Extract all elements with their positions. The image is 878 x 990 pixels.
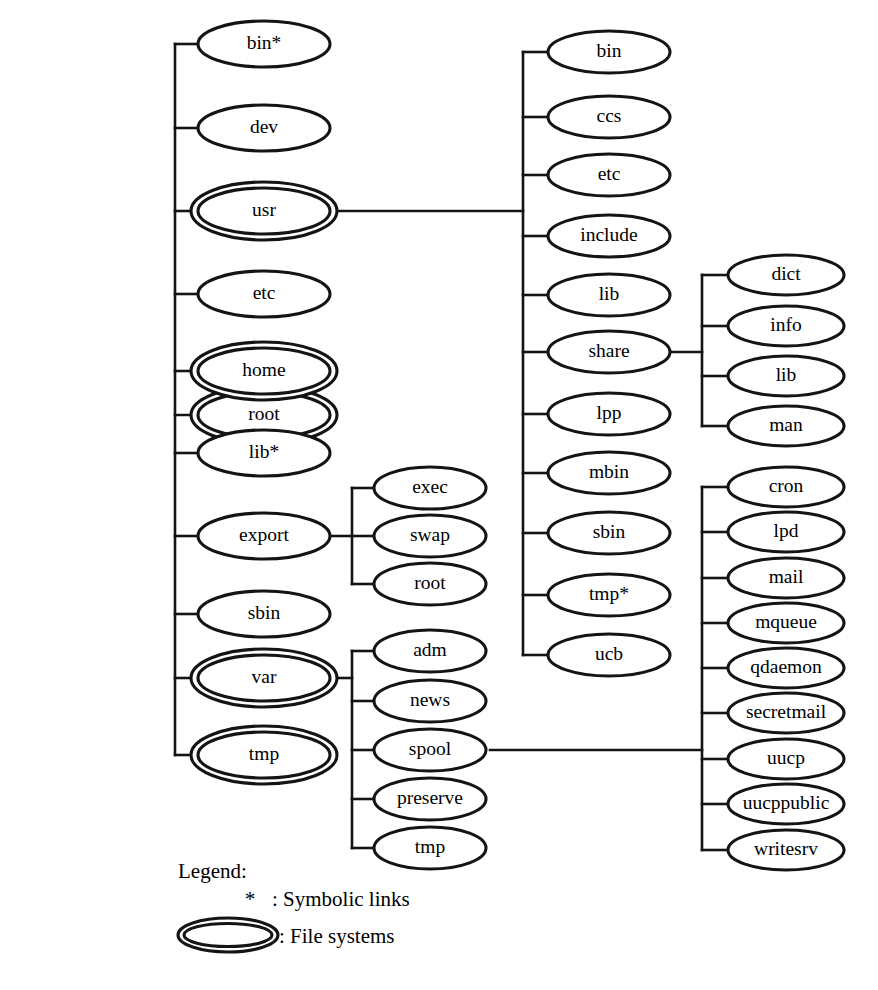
- node-usr[interactable]: usr: [191, 182, 337, 240]
- node-label-dev: dev: [250, 116, 278, 137]
- tree-canvas: rootbin*devusretchomelib*exportsbinvartm…: [0, 0, 878, 990]
- node-secretmail[interactable]: secretmail: [728, 693, 844, 733]
- node-usr-lib[interactable]: lib: [548, 274, 670, 316]
- node-swap[interactable]: swap: [374, 515, 486, 557]
- node-label-exec: exec: [412, 476, 448, 497]
- node-label-lpd: lpd: [774, 520, 799, 541]
- node-label-usr-lpp: lpp: [597, 402, 622, 423]
- node-label-etc: etc: [253, 282, 276, 303]
- node-mqueue[interactable]: mqueue: [728, 603, 844, 643]
- node-usr-ccs[interactable]: ccs: [548, 96, 670, 138]
- node-label-man: man: [769, 414, 803, 435]
- node-usr-share[interactable]: share: [548, 331, 670, 373]
- node-label-usr-sbin: sbin: [593, 521, 626, 542]
- node-mail[interactable]: mail: [728, 558, 844, 598]
- node-dev[interactable]: dev: [198, 105, 330, 151]
- node-label-export: export: [239, 524, 289, 545]
- node-label-spool: spool: [409, 738, 452, 759]
- node-usr-mbin[interactable]: mbin: [548, 452, 670, 494]
- node-share-lib[interactable]: lib: [728, 356, 844, 396]
- node-label-share-lib: lib: [776, 364, 797, 385]
- node-spool[interactable]: spool: [374, 729, 486, 771]
- node-label-mqueue: mqueue: [755, 611, 817, 632]
- node-label-usr: usr: [252, 199, 276, 220]
- node-usr-ucb[interactable]: ucb: [548, 634, 670, 676]
- node-label-usr-lib: lib: [599, 283, 620, 304]
- node-label-uucppublic: uucppublic: [743, 792, 830, 813]
- node-usr-bin[interactable]: bin: [548, 31, 670, 73]
- node-qdaemon[interactable]: qdaemon: [728, 648, 844, 688]
- node-usr-include[interactable]: include: [548, 215, 670, 257]
- node-lib[interactable]: lib*: [198, 430, 330, 476]
- node-usr-lpp[interactable]: lpp: [548, 393, 670, 435]
- node-var-tmp[interactable]: tmp: [374, 827, 486, 869]
- node-label-qdaemon: qdaemon: [750, 656, 822, 677]
- node-label-usr-include: include: [580, 224, 637, 245]
- node-label-usr-share: share: [588, 340, 629, 361]
- node-cron[interactable]: cron: [728, 467, 844, 507]
- node-tmp[interactable]: tmp: [191, 726, 337, 784]
- node-preserve[interactable]: preserve: [374, 778, 486, 820]
- node-label-adm: adm: [413, 639, 447, 660]
- node-lpd[interactable]: lpd: [728, 512, 844, 552]
- node-label-tmp: tmp: [249, 743, 279, 764]
- node-label-news: news: [410, 689, 450, 710]
- node-label-usr-etc: etc: [598, 163, 621, 184]
- node-uucppublic[interactable]: uucppublic: [728, 784, 844, 824]
- node-label-info: info: [770, 314, 801, 335]
- node-label-uucp: uucp: [767, 747, 805, 768]
- node-sbin[interactable]: sbin: [198, 591, 330, 637]
- node-label-usr-ucb: ucb: [595, 643, 623, 664]
- node-bin[interactable]: bin*: [198, 21, 330, 67]
- node-man[interactable]: man: [728, 406, 844, 446]
- node-export[interactable]: export: [198, 513, 330, 559]
- node-label-writesrv: writesrv: [754, 838, 818, 859]
- node-label-usr-bin: bin: [597, 40, 622, 61]
- node-usr-tmp[interactable]: tmp*: [548, 574, 670, 616]
- node-label-bin: bin*: [247, 32, 282, 53]
- node-home[interactable]: home: [191, 342, 337, 400]
- node-exec[interactable]: exec: [374, 467, 486, 509]
- node-usr-etc[interactable]: etc: [548, 154, 670, 196]
- node-label-dict: dict: [771, 263, 801, 284]
- node-label-preserve: preserve: [397, 787, 463, 808]
- legend-filesystem-icon: [178, 918, 278, 952]
- nodes-layer: rootbin*devusretchomelib*exportsbinvartm…: [191, 21, 844, 870]
- node-label-cron: cron: [769, 475, 804, 496]
- node-label-usr-tmp: tmp*: [589, 583, 629, 604]
- node-label-usr-ccs: ccs: [597, 105, 622, 126]
- legend-symbolic-link-icon: *: [245, 887, 256, 911]
- legend-symbolic-link-label: : Symbolic links: [272, 887, 410, 911]
- node-news[interactable]: news: [374, 680, 486, 722]
- node-adm[interactable]: adm: [374, 630, 486, 672]
- node-uucp[interactable]: uucp: [728, 739, 844, 779]
- filesystem-tree-diagram: rootbin*devusretchomelib*exportsbinvartm…: [0, 0, 878, 990]
- legend-filesystem-label: : File systems: [279, 924, 395, 948]
- legend-group: Legend: * : Symbolic links : File system…: [178, 859, 410, 952]
- node-label-var-tmp: tmp: [415, 836, 445, 857]
- node-label-var: var: [252, 666, 277, 687]
- node-label-secretmail: secretmail: [746, 701, 827, 722]
- legend-heading: Legend:: [178, 859, 247, 883]
- node-etc[interactable]: etc: [198, 271, 330, 317]
- node-info[interactable]: info: [728, 306, 844, 346]
- node-label-home: home: [242, 359, 285, 380]
- node-writesrv[interactable]: writesrv: [728, 830, 844, 870]
- node-label-mail: mail: [769, 566, 804, 587]
- node-dict[interactable]: dict: [728, 255, 844, 295]
- node-label-root: root: [248, 403, 280, 424]
- node-label-sbin: sbin: [248, 602, 281, 623]
- node-exp-root[interactable]: root: [374, 563, 486, 605]
- node-label-lib: lib*: [249, 441, 279, 462]
- node-label-swap: swap: [410, 524, 450, 545]
- node-usr-sbin[interactable]: sbin: [548, 512, 670, 554]
- node-label-usr-mbin: mbin: [589, 461, 629, 482]
- node-label-exp-root: root: [414, 572, 446, 593]
- node-var[interactable]: var: [191, 649, 337, 707]
